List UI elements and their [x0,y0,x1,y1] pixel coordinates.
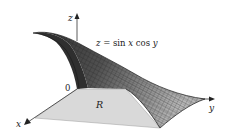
z-axis-label: z [67,13,73,23]
y-axis-label: y [208,103,215,113]
x-axis-arrow-icon [24,118,31,125]
z-axis-arrow-icon [75,13,80,19]
y-axis-arrow-icon [209,97,215,102]
x-axis-label: x [16,119,21,129]
equation-label: z = sin x cos y [95,38,158,48]
region-label: R [95,99,103,110]
surface-diagram: z 0 x y R z = sin x cos y [0,0,229,139]
origin-label: 0 [65,83,70,93]
